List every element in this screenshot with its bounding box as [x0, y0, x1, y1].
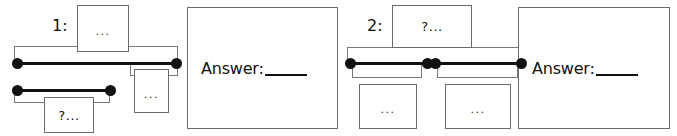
item-1-middle-node[interactable]: ... [134, 69, 169, 113]
item-1-question-node[interactable]: ?... [44, 97, 94, 133]
item-2-right-leaf-bracket-span [437, 77, 518, 78]
item-1-main-edge-left-dot[interactable] [12, 58, 23, 69]
item-1-top-node[interactable]: ... [77, 5, 129, 52]
item-2-answer-label-text: Answer: [532, 59, 595, 78]
item-1-main-edge [17, 62, 175, 65]
item-1-answer-label: Answer: [188, 59, 307, 78]
item-1-question-node-label: ?... [58, 109, 79, 122]
item-1-secondary-edge-right-dot[interactable] [105, 85, 116, 96]
item-2-left-edge [351, 62, 426, 65]
item-2-top-node-label: ?... [421, 20, 442, 33]
item-2-index-label: 2: [367, 16, 383, 35]
item-2-answer-box[interactable]: Answer: [518, 7, 670, 129]
item-2-left-leaf-node[interactable]: ... [359, 84, 417, 129]
item-2-right-edge-left-dot[interactable] [430, 58, 441, 69]
item-1-main-edge-right-dot[interactable] [171, 58, 182, 69]
item-2-left-leaf-node-label: ... [381, 104, 396, 115]
item-1-top-node-label: ... [96, 26, 111, 37]
item-2-right-edge-right-dot[interactable] [516, 58, 527, 69]
item-1-middle-node-label: ... [144, 89, 159, 100]
item-1-answer-box[interactable]: Answer: [187, 7, 338, 129]
item-2-left-edge-left-dot[interactable] [345, 58, 356, 69]
item-1-secondary-edge [17, 89, 110, 92]
item-2-top-node[interactable]: ?... [392, 5, 472, 48]
diagram-canvas: 1: ... ... ?... Answer: 2: ?... [0, 0, 677, 136]
item-2-answer-label: Answer: [519, 59, 638, 78]
item-2-right-leaf-node[interactable]: ... [445, 84, 511, 129]
item-1-secondary-edge-left-dot[interactable] [12, 85, 23, 96]
item-2-left-leaf-bracket-span [352, 77, 422, 78]
item-1-answer-blank[interactable] [265, 63, 307, 76]
item-2-right-edge [436, 62, 521, 65]
item-2-right-leaf-node-label: ... [471, 104, 486, 115]
item-1-answer-label-text: Answer: [201, 59, 264, 78]
item-2-answer-blank[interactable] [596, 63, 638, 76]
item-1-index-label: 1: [52, 16, 68, 35]
